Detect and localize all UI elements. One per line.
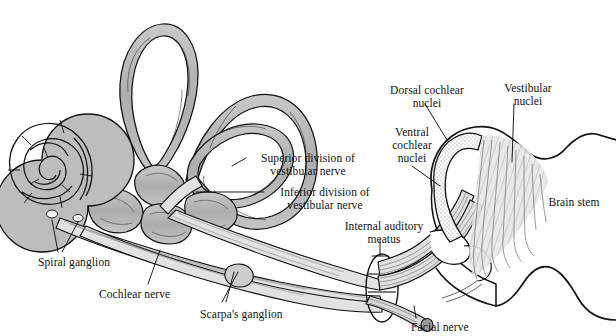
label-cochlear-nerve: Cochlear nerve <box>99 288 203 301</box>
label-brain-stem: Brain stem <box>537 196 611 209</box>
label-inferior-division-vestibular-nerve: Inferior division of vestibular nerve <box>266 186 384 212</box>
label-spiral-ganglion: Spiral ganglion <box>38 256 142 269</box>
label-dorsal-cochlear-nuclei: Dorsal cochlear nuclei <box>372 84 482 110</box>
label-internal-auditory-meatus: Internal auditory meatus <box>328 220 440 246</box>
label-ventral-cochlear-nuclei: Ventral cochlear nuclei <box>370 126 454 165</box>
anatomy-figure-root: Dorsal cochlear nuclei Vestibular nuclei… <box>0 0 616 336</box>
label-scarpas-ganglion: Scarpa's ganglion <box>200 308 316 321</box>
scarpas-ganglion-body <box>225 264 253 287</box>
label-vestibular-nuclei: Vestibular nuclei <box>480 82 576 108</box>
label-facial-nerve: Facial nerve <box>411 321 499 334</box>
label-superior-division-vestibular-nerve: Superior division of vestibular nerve <box>248 152 368 178</box>
